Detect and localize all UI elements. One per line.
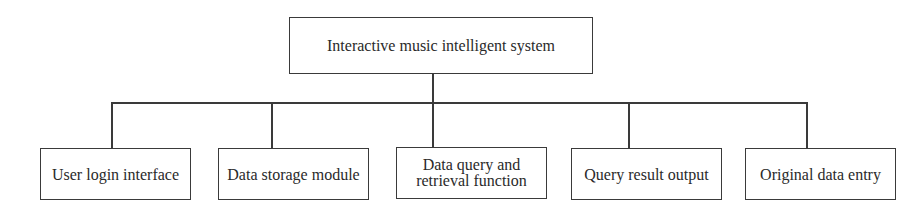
root-node-label: Interactive music intelligent system [323, 36, 559, 55]
child-node-query-result: Query result output [571, 148, 722, 200]
child-node-label: Data query and retrieval function [397, 157, 546, 189]
child-node-data-query: Data query and retrieval function [396, 147, 547, 199]
child-connector-1 [111, 102, 113, 148]
root-node: Interactive music intelligent system [289, 17, 593, 74]
child-connector-4 [628, 102, 630, 148]
child-node-user-login: User login interface [40, 148, 191, 200]
child-node-label: Query result output [580, 165, 712, 184]
child-node-data-storage: Data storage module [218, 148, 369, 200]
child-node-original-data: Original data entry [745, 148, 896, 200]
child-node-label: Original data entry [756, 165, 885, 184]
child-node-label: User login interface [48, 165, 183, 184]
horizontal-bus [111, 102, 807, 104]
child-connector-3 [432, 102, 434, 147]
root-connector [432, 74, 434, 103]
child-connector-5 [806, 102, 808, 148]
child-node-label: Data storage module [223, 165, 363, 184]
child-connector-2 [271, 102, 273, 148]
